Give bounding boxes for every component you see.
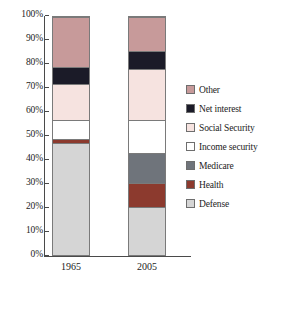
y-tick: 60% — [0, 107, 52, 117]
y-tick-mark — [45, 63, 49, 64]
y-tick: 20% — [0, 203, 52, 213]
bar-segment-health — [129, 183, 165, 207]
legend-swatch-icon — [186, 199, 195, 208]
legend-label: Defense — [199, 199, 229, 209]
y-tick: 90% — [0, 35, 52, 45]
legend-label: Income security — [199, 142, 258, 152]
y-tick: 40% — [0, 155, 52, 165]
y-tick: 80% — [0, 59, 52, 69]
y-tick: 30% — [0, 179, 52, 189]
legend-item: Defense — [186, 194, 281, 213]
y-tick-label: 60% — [26, 105, 43, 115]
legend-swatch-icon — [186, 104, 195, 113]
chart-figure: 100%90%80%70%60%50%40%30%20%10%0% 1965 2… — [0, 0, 281, 318]
legend-label: Medicare — [199, 161, 234, 171]
bar-segment-other — [53, 17, 89, 67]
chart-legend: OtherNet interestSocial SecurityIncome s… — [186, 80, 281, 213]
bar-segment-defense — [53, 143, 89, 256]
legend-swatch-icon — [186, 85, 195, 94]
y-tick-mark — [45, 207, 49, 208]
y-tick: 70% — [0, 83, 52, 93]
bar-segment-medicare — [129, 153, 165, 183]
y-tick-mark — [45, 159, 49, 160]
legend-item: Social Security — [186, 118, 281, 137]
y-tick-label: 100% — [21, 9, 43, 19]
legend-item: Income security — [186, 137, 281, 156]
legend-item: Other — [186, 80, 281, 99]
y-tick: 100% — [0, 11, 52, 21]
y-tick-mark — [45, 15, 49, 16]
x-axis-line — [44, 256, 191, 257]
bar-segment-defense — [129, 207, 165, 256]
legend-swatch-icon — [186, 142, 195, 151]
y-tick-mark — [45, 255, 49, 256]
y-tick: 10% — [0, 227, 52, 237]
y-tick-label: 20% — [26, 201, 43, 211]
legend-swatch-icon — [186, 180, 195, 189]
y-tick-label: 70% — [26, 81, 43, 91]
legend-swatch-icon — [186, 161, 195, 170]
y-tick-mark — [45, 111, 49, 112]
y-tick-label: 80% — [26, 57, 43, 67]
bar-segment-income-security — [129, 120, 165, 152]
bar-segment-net-interest — [53, 67, 89, 84]
y-tick-label: 10% — [26, 225, 43, 235]
y-tick-mark — [45, 39, 49, 40]
bar-segment-income-security — [53, 120, 89, 139]
y-tick-label: 40% — [26, 153, 43, 163]
y-tick-label: 90% — [26, 33, 43, 43]
legend-item: Net interest — [186, 99, 281, 118]
y-tick-mark — [45, 87, 49, 88]
legend-item: Medicare — [186, 156, 281, 175]
bar-segment-other — [129, 17, 165, 51]
legend-label: Net interest — [199, 104, 241, 114]
bar-segment-social-security — [129, 69, 165, 121]
x-axis-label-2005: 2005 — [117, 261, 177, 272]
legend-label: Health — [199, 180, 223, 190]
y-tick-label: 0% — [31, 249, 43, 259]
y-tick-mark — [45, 135, 49, 136]
legend-item: Health — [186, 175, 281, 194]
y-tick-label: 30% — [26, 177, 43, 187]
y-tick: 50% — [0, 131, 52, 141]
y-tick: 0% — [0, 251, 52, 261]
legend-label: Social Security — [199, 123, 255, 133]
y-tick-mark — [45, 231, 49, 232]
legend-label: Other — [199, 85, 220, 95]
stacked-bar-1965 — [52, 16, 90, 256]
legend-swatch-icon — [186, 123, 195, 132]
y-tick-mark — [45, 183, 49, 184]
x-axis-label-1965: 1965 — [41, 261, 101, 272]
y-tick-label: 50% — [26, 129, 43, 139]
bar-segment-social-security — [53, 84, 89, 120]
stacked-bar-2005 — [128, 16, 166, 256]
bar-segment-net-interest — [129, 51, 165, 69]
